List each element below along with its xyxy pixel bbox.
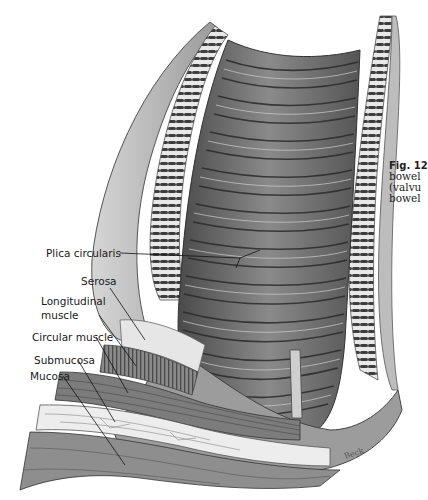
label-circular-muscle: Circular muscle: [32, 331, 113, 343]
cut-edge: [290, 350, 302, 418]
label-mucosa: Mucosa: [30, 370, 70, 382]
label-serosa: Serosa: [81, 275, 117, 287]
label-submucosa: Submucosa: [34, 354, 95, 366]
label-longitudinal-muscle: muscle: [41, 309, 79, 321]
label-longitudinal: Longitudinal: [41, 295, 106, 307]
caption-line-3: bowel: [389, 193, 428, 204]
label-plica-circularis: Plica circularis: [46, 247, 121, 259]
figure-caption: Fig. 12 bowel (valvu bowel: [389, 160, 428, 204]
